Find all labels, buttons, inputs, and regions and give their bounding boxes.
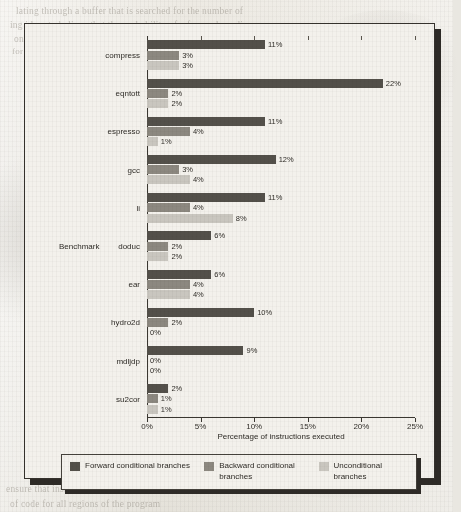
bar [147, 40, 265, 49]
bar-value-label: 4% [193, 175, 204, 184]
bar-value-label: 0% [150, 366, 161, 375]
plot-area: 0%5%10%15%20%25% compress11%3%3%eqntott2… [147, 36, 415, 418]
bar-value-label: 6% [214, 231, 225, 240]
bar [147, 51, 179, 60]
y-axis-category-label: li [136, 204, 140, 213]
y-axis-category-label: ear [128, 280, 140, 289]
bar-value-label: 11% [268, 40, 282, 49]
bar-group: gcc12%3%4% [147, 151, 415, 189]
chart-figure: Benchmark 0%5%10%15%20%25% compress11%3%… [24, 23, 435, 479]
bar-value-label: 0% [150, 356, 161, 365]
bar-value-label: 4% [193, 203, 204, 212]
bar-value-label: 4% [193, 280, 204, 289]
bar [147, 175, 190, 184]
bar-value-label: 3% [182, 51, 193, 60]
bar-value-label: 2% [171, 242, 182, 251]
y-axis-category-label: doduc [118, 242, 140, 251]
x-axis-tick-top [415, 36, 416, 40]
bar-group: hydro2d10%2%0% [147, 303, 415, 341]
x-axis-tick-label: 10% [246, 422, 262, 431]
bar [147, 165, 179, 174]
bar [147, 155, 276, 164]
bar [147, 193, 265, 202]
bar-value-label: 1% [161, 137, 172, 146]
bar [147, 280, 190, 289]
y-axis-category-label: compress [105, 51, 140, 60]
bar-group: su2cor2%1%1% [147, 380, 415, 418]
bar [147, 61, 179, 70]
bar [147, 394, 158, 403]
bar [147, 117, 265, 126]
bar-value-label: 11% [268, 117, 282, 126]
bar-value-label: 11% [268, 193, 282, 202]
y-axis-category-label: su2cor [116, 395, 140, 404]
bar-group: eqntott22%2%2% [147, 74, 415, 112]
y-axis-category-label: hydro2d [111, 318, 140, 327]
bar [147, 270, 211, 279]
bar [147, 318, 168, 327]
legend-swatch-icon [319, 462, 329, 471]
bar-group: compress11%3%3% [147, 36, 415, 74]
y-axis-category-label: eqntott [116, 89, 140, 98]
y-axis-title: Benchmark [59, 242, 99, 251]
legend-item: Backward conditional branches [204, 461, 318, 482]
bar [147, 346, 243, 355]
legend-item: Forward conditional branches [70, 461, 204, 472]
bar [147, 242, 168, 251]
bar [147, 137, 158, 146]
bar-value-label: 1% [161, 394, 172, 403]
bar-value-label: 1% [161, 405, 172, 414]
bar-value-label: 4% [193, 127, 204, 136]
bar-group: espresso11%4%1% [147, 112, 415, 150]
x-axis-tick-label: 15% [300, 422, 316, 431]
bar [147, 79, 383, 88]
bar [147, 214, 233, 223]
bar [147, 231, 211, 240]
bar [147, 252, 168, 261]
y-axis-category-label: gcc [128, 166, 140, 175]
x-axis-tick-label: 25% [407, 422, 423, 431]
x-axis-tick-label: 20% [353, 422, 369, 431]
chart-legend: Forward conditional branchesBackward con… [61, 454, 417, 490]
x-axis-tick-label: 0% [141, 422, 153, 431]
bar-group: mdljdp9%0%0% [147, 342, 415, 380]
legend-label: Backward conditional branches [219, 461, 318, 482]
y-axis-category-label: espresso [108, 127, 140, 136]
legend-label: Forward conditional branches [85, 461, 190, 472]
bar-value-label: 2% [171, 318, 182, 327]
bar [147, 290, 190, 299]
bar-value-label: 6% [214, 270, 225, 279]
bar-value-label: 0% [150, 328, 161, 337]
bar-group: doduc6%2%2% [147, 227, 415, 265]
bar-value-label: 2% [171, 89, 182, 98]
x-axis-title: Percentage of instructions executed [147, 432, 415, 441]
bar-value-label: 22% [386, 79, 401, 88]
bar-value-label: 3% [182, 61, 193, 70]
bar [147, 127, 190, 136]
bar [147, 89, 168, 98]
bar-group: ear6%4%4% [147, 265, 415, 303]
bar-value-label: 3% [182, 165, 193, 174]
bar-value-label: 2% [171, 252, 182, 261]
bar-value-label: 4% [193, 290, 204, 299]
bar [147, 203, 190, 212]
bar [147, 384, 168, 393]
bar [147, 405, 158, 414]
legend-swatch-icon [70, 462, 80, 471]
bar-group: li11%4%8% [147, 189, 415, 227]
bar [147, 308, 254, 317]
bar-value-label: 12% [279, 155, 294, 164]
bar [147, 99, 168, 108]
bar-value-label: 9% [246, 346, 257, 355]
bar-value-label: 8% [236, 214, 247, 223]
x-axis-tick-label: 5% [195, 422, 207, 431]
legend-swatch-icon [204, 462, 214, 471]
y-axis-category-label: mdljdp [116, 357, 140, 366]
bar-value-label: 2% [171, 99, 182, 108]
legend-item: Unconditional branches [319, 461, 408, 482]
bar-value-label: 10% [257, 308, 272, 317]
legend-label: Unconditional branches [334, 461, 408, 482]
bar-value-label: 2% [171, 384, 182, 393]
